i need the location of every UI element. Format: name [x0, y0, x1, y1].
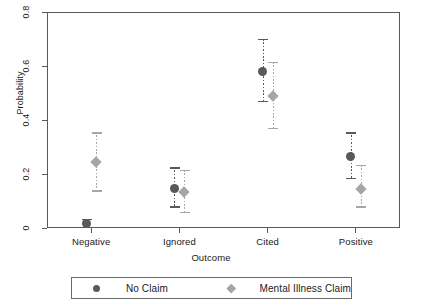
error-bar-cap-upper — [92, 132, 102, 133]
x-tick-label: Negative — [41, 236, 141, 247]
legend-label-no-claim: No Claim — [126, 283, 168, 294]
y-tick-label: 0.6 — [13, 53, 39, 79]
error-bar-cap-upper — [346, 132, 356, 133]
error-bar-cap-upper — [170, 167, 180, 168]
error-bar-cap-lower — [346, 178, 356, 179]
error-bar-cap-upper — [268, 62, 278, 63]
y-tick-label: 0 — [13, 215, 39, 241]
y-tick-label: 0.8 — [13, 0, 39, 25]
x-tick-mark — [91, 228, 92, 233]
error-bar-cap-lower — [258, 101, 268, 102]
error-bar-cap-lower — [170, 206, 180, 207]
y-tick-label: 0.4 — [13, 107, 39, 133]
x-axis-title: Outcome — [0, 252, 422, 263]
error-bar-cap-lower — [180, 212, 190, 213]
y-tick-label: 0.2 — [13, 161, 39, 187]
error-bar-cap-upper — [258, 39, 268, 40]
legend-item-mental-illness-claim: Mental Illness Claim — [216, 278, 351, 298]
x-tick-mark — [179, 228, 180, 233]
plot-area — [47, 12, 400, 228]
y-tick-mark — [42, 12, 47, 13]
diamond-marker-icon — [226, 282, 238, 294]
x-tick-label: Positive — [306, 236, 406, 247]
error-bar-cap-lower — [356, 206, 366, 207]
y-tick-mark — [42, 120, 47, 121]
y-tick-mark — [42, 228, 47, 229]
error-bar-cap-lower — [268, 128, 278, 129]
error-bar-cap-lower — [92, 190, 102, 191]
x-tick-mark — [267, 228, 268, 233]
x-tick-label: Ignored — [129, 236, 229, 247]
probability-by-outcome-chart: Probability 00.20.40.60.8 NegativeIgnore… — [0, 0, 422, 305]
data-point-marker — [258, 67, 267, 76]
error-bar-cap-upper — [180, 170, 190, 171]
error-bar-cap-upper — [356, 165, 366, 166]
chart-legend: No Claim Mental Illness Claim — [71, 277, 352, 299]
legend-label-mental-illness-claim: Mental Illness Claim — [260, 283, 351, 294]
y-tick-mark — [42, 174, 47, 175]
x-tick-mark — [355, 228, 356, 233]
y-tick-mark — [42, 66, 47, 67]
legend-item-no-claim: No Claim — [72, 278, 216, 298]
x-tick-label: Cited — [218, 236, 318, 247]
circle-marker-icon — [90, 282, 102, 294]
